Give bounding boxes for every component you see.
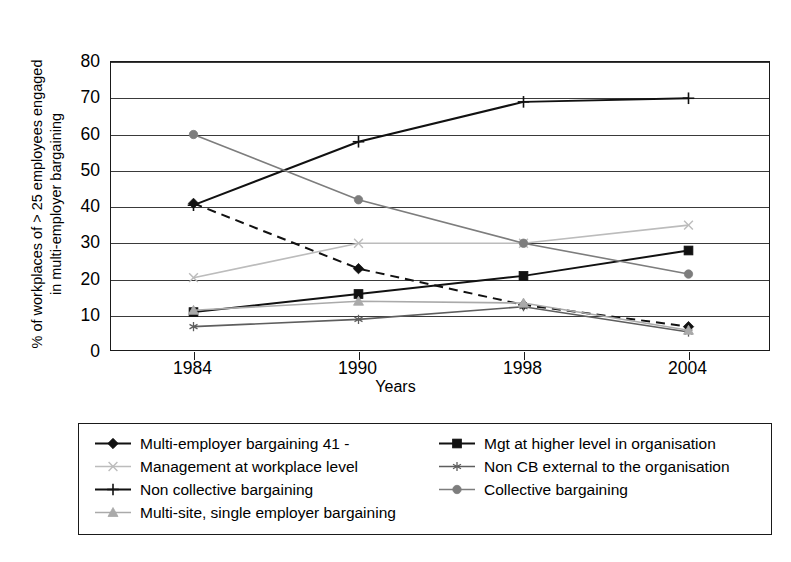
series-line xyxy=(194,98,689,205)
legend-label: Non CB external to the organisation xyxy=(484,458,730,476)
legend-label: Multi-site, single employer bargaining xyxy=(140,504,396,522)
data-series-layer xyxy=(111,62,771,352)
series-0 xyxy=(188,198,693,332)
legend-key-x-icon xyxy=(93,455,133,478)
y-axis-tick-label: 40 xyxy=(64,196,100,217)
legend-key xyxy=(93,432,133,455)
data-point-circle xyxy=(519,239,527,247)
legend-column-right: Mgt at higher level in organisationNon C… xyxy=(437,432,730,501)
legend-key-plus-icon xyxy=(93,478,133,501)
y-axis-tick-label: 80 xyxy=(64,51,100,72)
series-3 xyxy=(189,302,692,337)
data-point-plus xyxy=(683,92,695,104)
series-4 xyxy=(188,92,695,211)
data-point-diamond xyxy=(353,263,363,273)
data-point-plus xyxy=(188,199,200,211)
x-axis-title: Years xyxy=(0,378,791,396)
legend-column-left: Multi-employer bargaining 41 -Management… xyxy=(93,432,396,524)
legend-item[interactable]: Non CB external to the organisation xyxy=(437,455,730,478)
data-point-circle xyxy=(189,130,197,138)
data-point-circle xyxy=(684,270,692,278)
plot-area xyxy=(110,61,770,351)
y-axis-tick-label: 20 xyxy=(64,268,100,289)
y-axis-tick-label: 10 xyxy=(64,304,100,325)
data-point-diamond xyxy=(108,438,118,448)
data-point-circle xyxy=(354,196,362,204)
legend-key-square-icon xyxy=(437,432,477,455)
legend-item[interactable]: Non collective bargaining xyxy=(93,478,396,501)
x-axis-tick-label: 1998 xyxy=(483,358,563,379)
chart-legend: Multi-employer bargaining 41 -Management… xyxy=(78,423,772,535)
legend-key-circle-icon xyxy=(437,478,477,501)
series-line xyxy=(194,135,689,275)
x-axis-tick-label: 2004 xyxy=(648,358,728,379)
legend-key xyxy=(93,501,133,524)
legend-key xyxy=(437,478,477,501)
legend-item[interactable]: Mgt at higher level in organisation xyxy=(437,432,730,455)
legend-key xyxy=(437,455,477,478)
legend-item[interactable]: Collective bargaining xyxy=(437,478,730,501)
y-axis-tick-label: 30 xyxy=(64,232,100,253)
y-axis-tick-label: 0 xyxy=(64,341,100,362)
y-axis-tick-label: 70 xyxy=(64,87,100,108)
legend-key xyxy=(93,478,133,501)
legend-label: Non collective bargaining xyxy=(140,481,313,499)
chart-page: % of workplaces of > 25 employees engage… xyxy=(0,0,791,562)
legend-item[interactable]: Multi-employer bargaining 41 - xyxy=(93,432,396,455)
x-axis-tick-label: 1984 xyxy=(153,358,233,379)
data-point-square xyxy=(684,246,693,255)
legend-key-diamond-icon xyxy=(93,432,133,455)
legend-key xyxy=(437,432,477,455)
legend-label: Collective bargaining xyxy=(484,481,628,499)
series-line xyxy=(194,301,689,330)
legend-key-triangle-icon xyxy=(93,501,133,524)
legend-item[interactable]: Multi-site, single employer bargaining xyxy=(93,501,396,524)
y-axis-tick-label: 60 xyxy=(64,123,100,144)
data-point-plus xyxy=(518,96,530,108)
legend-key-asterisk-icon xyxy=(437,455,477,478)
legend-label: Management at workplace level xyxy=(140,458,358,476)
series-6 xyxy=(189,296,694,334)
y-axis-title: % of workplaces of > 25 employees engage… xyxy=(28,24,66,384)
data-point-square xyxy=(519,271,528,280)
x-axis-tick-label: 1990 xyxy=(318,358,398,379)
legend-key xyxy=(93,455,133,478)
data-point-plus xyxy=(107,484,119,496)
legend-label: Multi-employer bargaining 41 - xyxy=(140,435,349,453)
data-point-square xyxy=(453,439,462,448)
series-line xyxy=(194,307,689,332)
legend-item[interactable]: Management at workplace level xyxy=(93,455,396,478)
y-axis-tick-label: 50 xyxy=(64,159,100,180)
series-2 xyxy=(189,221,693,282)
data-point-circle xyxy=(453,485,461,493)
series-5 xyxy=(189,130,692,278)
data-point-plus xyxy=(353,136,365,148)
legend-label: Mgt at higher level in organisation xyxy=(484,435,716,453)
